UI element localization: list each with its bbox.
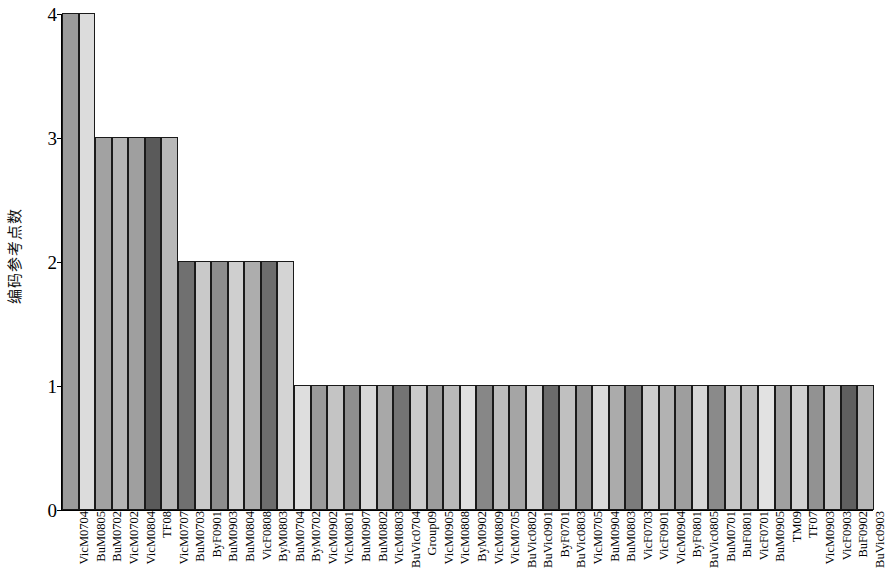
- bar: [576, 385, 593, 510]
- x-axis-tick-label: BuVic0901: [540, 511, 556, 586]
- x-axis-tick-label: VicM0705: [590, 511, 606, 586]
- bar: [128, 137, 145, 510]
- bar: [62, 13, 79, 510]
- bar: [195, 261, 212, 510]
- bar: [244, 261, 261, 510]
- bar: [460, 385, 477, 510]
- x-axis-tick-label: VicM0809: [491, 511, 507, 586]
- bar: [377, 385, 394, 510]
- x-axis-tick-label: VicM0904: [673, 511, 689, 586]
- x-axis-tick-label: BuVic0803: [573, 511, 589, 586]
- bar: [625, 385, 642, 510]
- x-axis-tick-label: ByF0701: [557, 511, 573, 586]
- x-axis-tick-label: BuM0802: [375, 511, 391, 586]
- x-axis-tick-label: BuVic0802: [524, 511, 540, 586]
- bar: [642, 385, 659, 510]
- bar: [211, 261, 228, 510]
- x-axis-tick-label: BuM0805: [93, 511, 109, 586]
- bar: [791, 385, 808, 510]
- x-axis-tick-label: TM09: [789, 511, 805, 586]
- bar: [476, 385, 493, 510]
- bar: [261, 261, 278, 510]
- x-axis-tick-label: TF07: [805, 511, 821, 586]
- bar: [145, 137, 162, 510]
- x-axis-tick-label: VicF0903: [839, 511, 855, 586]
- bar: [775, 385, 792, 510]
- bar: [659, 385, 676, 510]
- bar: [526, 385, 543, 510]
- x-axis-tick-label: ByM0702: [308, 511, 324, 586]
- x-axis-tick-label: BuM0701: [723, 511, 739, 586]
- bar: [393, 385, 410, 510]
- bar: [758, 385, 775, 510]
- x-axis-tick-label: BuM0704: [292, 511, 308, 586]
- bar: [161, 137, 178, 510]
- plot-area: [62, 0, 874, 511]
- bar: [841, 385, 858, 510]
- x-axis-tick-label: Group09: [424, 511, 440, 586]
- bar: [543, 385, 560, 510]
- bar: [79, 13, 96, 510]
- x-axis-tick-label: ByF0901: [209, 511, 225, 586]
- bar: [741, 385, 758, 510]
- bar: [344, 385, 361, 510]
- x-axis-tick-label: BuVic0805: [706, 511, 722, 586]
- x-axis-tick-label: VicM0903: [822, 511, 838, 586]
- bar: [294, 385, 311, 510]
- bar: [609, 385, 626, 510]
- bar: [95, 137, 112, 510]
- x-axis-tick-label: BuF0902: [855, 511, 871, 586]
- bar: [178, 261, 195, 510]
- x-axis-tick-label: VicM0804: [143, 511, 159, 586]
- x-axis-tick-label: BuVic0704: [408, 511, 424, 586]
- x-axis-tick-label: BuM0903: [225, 511, 241, 586]
- x-axis-tick-label: VicF0703: [640, 511, 656, 586]
- x-axis-tick-label: VicF0701: [756, 511, 772, 586]
- bar: [228, 261, 245, 510]
- bar: [360, 385, 377, 510]
- x-axis-tick-label: BuF0801: [739, 511, 755, 586]
- bar: [443, 385, 460, 510]
- bar: [509, 385, 526, 510]
- bar: [112, 137, 129, 510]
- bar: [592, 385, 609, 510]
- x-axis-tick-label: VicM0803: [391, 511, 407, 586]
- x-axis-tick-label: VicM0808: [457, 511, 473, 586]
- x-axis-tick-label: VicM0801: [341, 511, 357, 586]
- x-axis-tick-label: ByF0801: [689, 511, 705, 586]
- x-axis-tick-label: BuM0905: [772, 511, 788, 586]
- bar: [410, 385, 427, 510]
- x-axis-tick-label: VicF0808: [259, 511, 275, 586]
- x-axis-tick-label: ByM0902: [474, 511, 490, 586]
- x-axis-tick-label: BuM0804: [242, 511, 258, 586]
- x-axis-tick-label: BuM0907: [358, 511, 374, 586]
- bar: [808, 385, 825, 510]
- y-axis: 01234: [26, 0, 62, 586]
- x-axis-tick-label: TF08: [159, 511, 175, 586]
- x-axis-tick-label: BuM0703: [192, 511, 208, 586]
- bar: [277, 261, 294, 510]
- bar: [725, 385, 742, 510]
- x-axis-tick-label: BuM0803: [623, 511, 639, 586]
- x-axis-tick-label: VicM0705: [507, 511, 523, 586]
- x-axis-tick-label: VicM0704: [76, 511, 92, 586]
- x-axis-tick-label: VicM0905: [441, 511, 457, 586]
- x-axis-tick-label: VicM0707: [176, 511, 192, 586]
- x-axis-tick-label: BuM0702: [109, 511, 125, 586]
- x-axis-tick-label: ByM0803: [275, 511, 291, 586]
- x-axis-tick-labels: VicM0704BuM0805BuM0702VicM0702VicM0804TF…: [62, 511, 874, 586]
- bar: [708, 385, 725, 510]
- bar: [675, 385, 692, 510]
- y-axis-label-text: 编码参考点数: [3, 207, 24, 303]
- x-axis-tick-label: BuM0904: [607, 511, 623, 586]
- bar: [824, 385, 841, 510]
- bar: [493, 385, 510, 510]
- y-axis-label: 编码参考点数: [0, 0, 26, 510]
- x-axis-tick-label: VicM0902: [325, 511, 341, 586]
- bar: [327, 385, 344, 510]
- bar: [692, 385, 709, 510]
- x-axis-tick-label: BuVic0903: [872, 511, 888, 586]
- bar: [559, 385, 576, 510]
- bar: [427, 385, 444, 510]
